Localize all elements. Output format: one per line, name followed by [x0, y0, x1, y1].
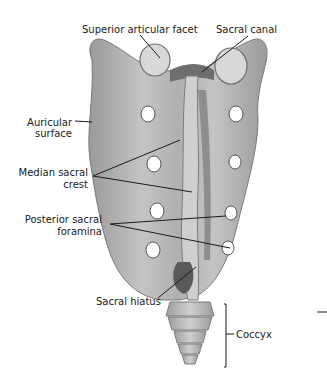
sacrum-illustration — [0, 0, 327, 380]
sacrum-diagram: Superior articular facet Sacral canal Au… — [0, 0, 327, 380]
foramen — [150, 203, 164, 219]
label-coccyx: Coccyx — [236, 329, 272, 340]
foramen — [225, 206, 237, 220]
foramen — [146, 242, 160, 258]
label-sacral-hiatus: Sacral hiatus — [96, 296, 161, 307]
label-median-sacral-crest-line1: Median sacral — [8, 167, 88, 178]
foramen — [141, 106, 155, 122]
label-sacral-canal: Sacral canal — [216, 24, 277, 35]
label-median-sacral-crest-line2: crest — [8, 179, 88, 190]
foramen — [147, 156, 161, 172]
foramen — [229, 106, 243, 122]
right-articular-facet — [215, 48, 247, 84]
left-articular-facet — [140, 44, 170, 76]
coccyx — [166, 302, 214, 364]
label-auricular-surface-line2: surface — [26, 128, 72, 139]
label-auricular-surface-line1: Auricular — [26, 117, 72, 128]
label-posterior-sacral-foramina-line1: Posterior sacral — [18, 214, 102, 225]
label-superior-articular-facet: Superior articular facet — [82, 24, 198, 35]
foramen — [229, 155, 241, 169]
label-posterior-sacral-foramina-line2: foramina — [18, 226, 102, 237]
